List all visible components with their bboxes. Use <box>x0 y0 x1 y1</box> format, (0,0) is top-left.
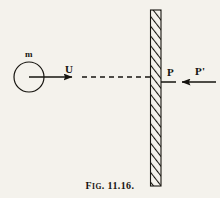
figure-caption: FIG. 11.16. <box>0 180 220 191</box>
hatched-wall <box>151 10 162 186</box>
physics-figure: m U P P' FIG. 11.16. <box>0 0 220 198</box>
caption-number: . 11.16. <box>102 180 135 191</box>
force-p-prime-label: P' <box>195 66 205 77</box>
force-p-label: P <box>167 67 174 78</box>
velocity-label: U <box>65 64 73 75</box>
figure-drawing-canvas <box>0 0 220 198</box>
mass-label: m <box>25 50 33 59</box>
caption-smallcaps: IG <box>92 182 102 191</box>
